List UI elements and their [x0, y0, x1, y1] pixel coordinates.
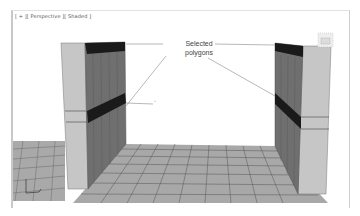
viewcube-icon[interactable]	[318, 33, 333, 47]
callout-line2: polygons	[174, 48, 224, 57]
pivot-marker-icon: +	[154, 99, 156, 103]
selected-polygons-callout: Selected polygons	[174, 39, 224, 57]
callout-line1: Selected	[174, 39, 224, 48]
perspective-viewport[interactable]: [ + ][ Perspective ][ Shaded ]	[11, 10, 350, 208]
